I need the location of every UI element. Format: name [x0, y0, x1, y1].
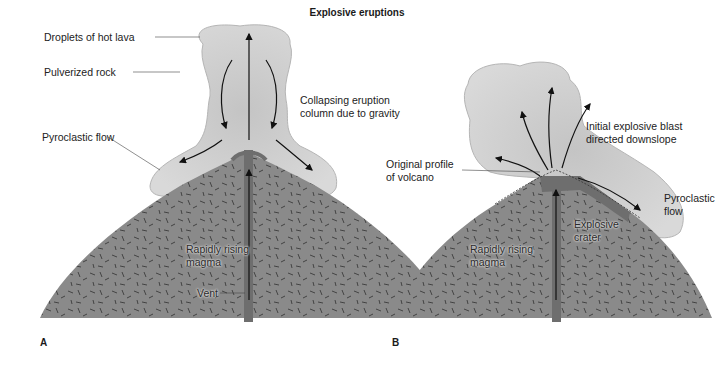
panel-letter-b: B [392, 337, 399, 348]
label-vent: Vent [197, 287, 218, 300]
label-pyroclastic-flow-a: Pyroclastic flow [42, 131, 114, 144]
label-rising-line-2: magma [186, 256, 249, 269]
label-crater-line-1: Explosive [574, 218, 619, 231]
label-pyroclastic-flow-b: Pyroclastic flow [664, 192, 715, 218]
label-pyroclastic-line-2: flow [664, 205, 715, 218]
label-droplets-of-hot-lava: Droplets of hot lava [44, 31, 134, 44]
label-rising-b-line-2: magma [470, 256, 533, 269]
label-original-line-1: Original profile [386, 158, 454, 171]
label-explosive-crater: Explosive crater [574, 218, 619, 244]
label-rapidly-rising-magma-a: Rapidly rising magma [186, 243, 249, 269]
label-rapidly-rising-magma-b: Rapidly rising magma [470, 243, 533, 269]
label-pulverized-rock: Pulverized rock [44, 66, 116, 79]
label-initial-blast: Initial explosive blast directed downslo… [586, 120, 682, 146]
label-crater-line-2: crater [574, 231, 619, 244]
label-collapsing-column: Collapsing eruption column due to gravit… [300, 94, 400, 120]
label-blast-line-2: directed downslope [586, 133, 682, 146]
label-rising-b-line-1: Rapidly rising [470, 243, 533, 256]
label-original-line-2: of volcano [386, 171, 454, 184]
panel-letter-a: A [40, 337, 47, 348]
label-collapsing-line-2: column due to gravity [300, 107, 400, 120]
label-original-profile: Original profile of volcano [386, 158, 454, 184]
label-rising-line-1: Rapidly rising [186, 243, 249, 256]
label-pyroclastic-line-1: Pyroclastic [664, 192, 715, 205]
label-collapsing-line-1: Collapsing eruption [300, 94, 400, 107]
label-blast-line-1: Initial explosive blast [586, 120, 682, 133]
